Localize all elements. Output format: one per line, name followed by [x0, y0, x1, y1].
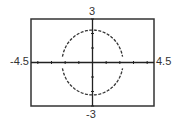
ymax-label: 3 [89, 6, 95, 17]
ymin-label: -3 [86, 109, 96, 120]
axes [31, 19, 154, 106]
xmin-label: -4.5 [10, 56, 29, 67]
xmax-label: 4.5 [156, 56, 171, 67]
